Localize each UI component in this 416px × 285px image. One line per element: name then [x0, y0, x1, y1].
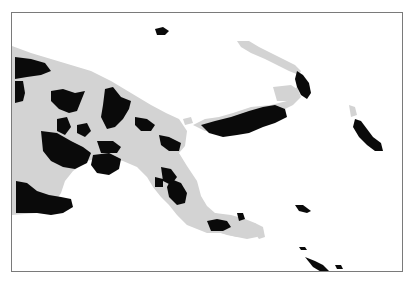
- north-islet-region: [155, 27, 169, 35]
- louisiade-1-region: [299, 247, 307, 250]
- louisiade-3-region: [335, 265, 343, 269]
- map-frame: [11, 12, 403, 272]
- louisiade-2-region: [305, 257, 329, 272]
- bougainville-region: [353, 119, 383, 151]
- trobriand-region: [295, 205, 311, 213]
- highlight-layer: [15, 27, 383, 272]
- map-canvas: [12, 13, 403, 272]
- new-ireland-strip-region: [237, 41, 301, 75]
- small-islet-1-region: [183, 117, 193, 125]
- bougainville-grey-region: [349, 105, 357, 117]
